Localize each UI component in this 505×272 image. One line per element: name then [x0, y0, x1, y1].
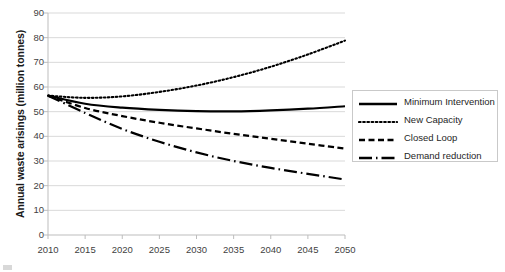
bottom-edge-artifact — [3, 265, 12, 270]
legend-swatch-dashed-icon — [358, 132, 398, 144]
legend-label: Closed Loop — [404, 133, 457, 143]
legend-item-new-capacity: New Capacity — [358, 111, 463, 129]
legend-label: Minimum Intervention — [404, 97, 495, 107]
x-tick-label: 2025 — [149, 244, 170, 255]
chart-legend: Minimum Intervention New Capacity Closed… — [352, 90, 498, 162]
x-tick-label: 2040 — [260, 244, 281, 255]
legend-swatch-solid-icon — [358, 96, 398, 108]
chart-container: Annual waste arisings (million tonnes) 0… — [0, 0, 505, 272]
legend-item-minimum-intervention: Minimum Intervention — [358, 93, 495, 111]
x-tick-label: 2050 — [334, 244, 355, 255]
x-tick-label: 2030 — [186, 244, 207, 255]
x-tick-label: 2045 — [297, 244, 318, 255]
legend-item-demand-reduction: Demand reduction — [358, 147, 482, 165]
x-tick-label: 2015 — [75, 244, 96, 255]
x-tick-label: 2035 — [223, 244, 244, 255]
legend-item-closed-loop: Closed Loop — [358, 129, 457, 147]
legend-label: New Capacity — [404, 115, 463, 125]
legend-label: Demand reduction — [404, 151, 482, 161]
x-tick-label: 2020 — [112, 244, 133, 255]
series-line — [48, 41, 345, 98]
legend-swatch-dotted-icon — [358, 114, 398, 126]
series-line — [48, 96, 345, 149]
legend-swatch-dash-dot-icon — [358, 150, 398, 162]
x-tick-label: 2010 — [37, 244, 58, 255]
